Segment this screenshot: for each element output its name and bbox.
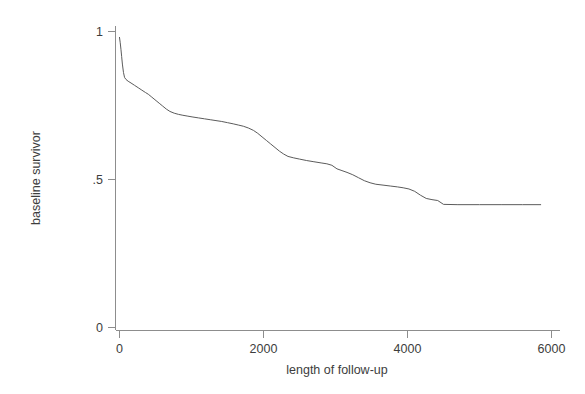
y-tick-label-0-5: .5 xyxy=(93,173,103,187)
x-tick-label-4000: 4000 xyxy=(394,342,422,356)
x-tick-label-0: 0 xyxy=(116,342,123,356)
y-tick-label-1: 1 xyxy=(96,25,103,39)
x-axis-title: length of follow-up xyxy=(286,363,388,377)
y-axis-title: baseline survivor xyxy=(29,131,43,225)
baseline-survivor-curve xyxy=(120,37,541,204)
x-tick-label-2000: 2000 xyxy=(250,342,278,356)
figure-canvas: 1 .5 0 0 2000 4000 6000 length of follow… xyxy=(0,0,585,394)
x-tick-label-6000: 6000 xyxy=(538,342,566,356)
survivor-plot: 1 .5 0 0 2000 4000 6000 length of follow… xyxy=(0,0,585,394)
y-tick-label-0: 0 xyxy=(96,321,103,335)
